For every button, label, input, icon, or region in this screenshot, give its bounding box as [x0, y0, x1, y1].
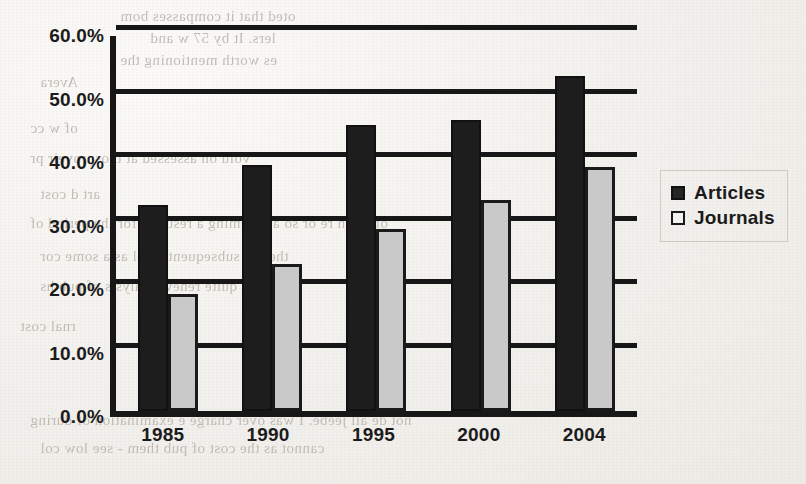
- bar-chart: 0.0%10.0%20.0%30.0%40.0%50.0%60.0% 19851…: [0, 0, 806, 484]
- legend-item-journals: Journals: [671, 207, 775, 229]
- y-axis-tick-label: 20.0%: [49, 279, 104, 301]
- bar-articles-1995: [346, 125, 376, 411]
- bar-group-2000: [433, 36, 529, 411]
- bar-journals-2000: [481, 200, 511, 411]
- x-axis-tick-label: 1985: [114, 424, 211, 464]
- gridline: [116, 25, 637, 30]
- y-axis-tick-label: 50.0%: [49, 89, 104, 111]
- y-axis-tick-label: 40.0%: [49, 152, 104, 174]
- y-axis-tick-label: 60.0%: [49, 25, 104, 47]
- x-axis-tick-labels: 19851990199520002004: [110, 424, 637, 464]
- x-axis-tick-label: 1995: [325, 424, 422, 464]
- bar-journals-1985: [168, 294, 198, 411]
- bar-group-1995: [329, 36, 425, 411]
- y-axis-tick-labels: 0.0%10.0%20.0%30.0%40.0%50.0%60.0%: [8, 0, 104, 484]
- legend-item-articles: Articles: [671, 182, 775, 204]
- bar-articles-2004: [555, 76, 585, 411]
- bar-journals-1990: [272, 264, 302, 411]
- y-axis-tick-label: 10.0%: [49, 343, 104, 365]
- y-axis-tick-label: 0.0%: [60, 406, 104, 428]
- bar-articles-2000: [451, 120, 481, 411]
- y-axis-tick-label: 30.0%: [49, 216, 104, 238]
- legend-label: Articles: [694, 182, 765, 204]
- bar-journals-2004: [585, 167, 615, 411]
- bar-group-1985: [120, 36, 216, 411]
- bar-articles-1985: [138, 205, 168, 411]
- x-axis-tick-label: 2004: [536, 424, 633, 464]
- legend-swatch-icon: [671, 211, 685, 225]
- bar-articles-1990: [242, 165, 272, 411]
- x-axis-tick-label: 1990: [220, 424, 317, 464]
- bar-groups: [116, 36, 637, 411]
- legend-label: Journals: [694, 207, 775, 229]
- chart-legend: ArticlesJournals: [660, 170, 788, 242]
- bar-group-1990: [224, 36, 320, 411]
- legend-swatch-icon: [671, 186, 685, 200]
- plot-area: [110, 36, 637, 417]
- bar-journals-1995: [376, 229, 406, 411]
- bar-group-2004: [537, 36, 633, 411]
- x-axis-tick-label: 2000: [430, 424, 527, 464]
